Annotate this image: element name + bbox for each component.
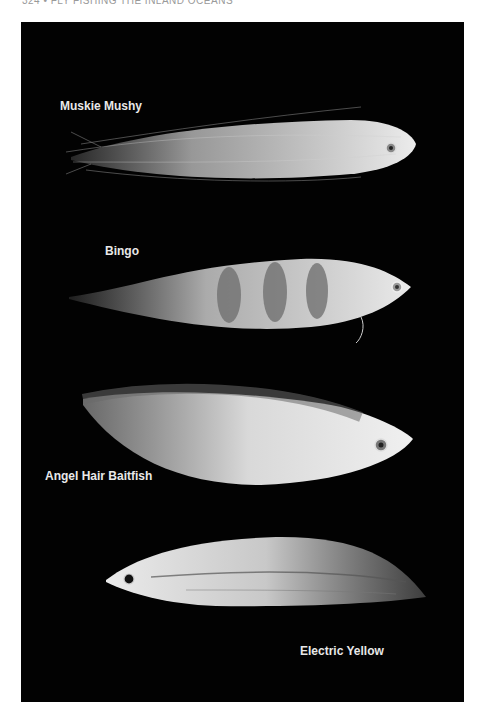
fly-eye-icon bbox=[124, 574, 134, 584]
bingo-fly-image bbox=[61, 247, 431, 352]
muskie-mushy-fly-image bbox=[61, 102, 451, 202]
running-head: 324 • FLY FISHING THE INLAND OCEANS bbox=[22, 0, 233, 6]
fly-label-angel-hair-baitfish: Angel Hair Baitfish bbox=[45, 469, 152, 483]
fly-photo-panel: Muskie Mushy Bingo bbox=[21, 22, 464, 702]
electric-yellow-fly-image bbox=[96, 522, 436, 622]
fly-label-electric-yellow: Electric Yellow bbox=[300, 644, 384, 658]
